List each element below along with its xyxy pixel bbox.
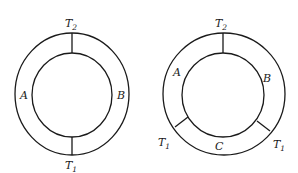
left-bottom-label: T1 (65, 159, 77, 173)
right-bottom-right-label: T1 (273, 138, 285, 153)
left-arc-label-a: A (19, 89, 28, 102)
left-top-label: T2 (65, 17, 77, 32)
right-arc-label-a: A (172, 66, 181, 79)
left-ring-figure: T2 T1 A B (15, 17, 129, 173)
right-bottom-left-label: T1 (158, 136, 170, 151)
right-arc-label-c: C (215, 140, 224, 153)
right-inner-circle (182, 53, 264, 137)
left-arc-label-b: B (116, 89, 125, 102)
right-bottom-right-divider (257, 121, 270, 131)
right-arc-label-b: B (262, 72, 271, 85)
left-inner-circle (32, 53, 112, 137)
diagram-canvas: T2 T1 A B T2 T1 T1 A B C (0, 0, 298, 173)
right-bottom-left-divider (175, 117, 188, 127)
right-top-label: T2 (215, 17, 227, 32)
right-ring-figure: T2 T1 T1 A B C (158, 17, 285, 155)
